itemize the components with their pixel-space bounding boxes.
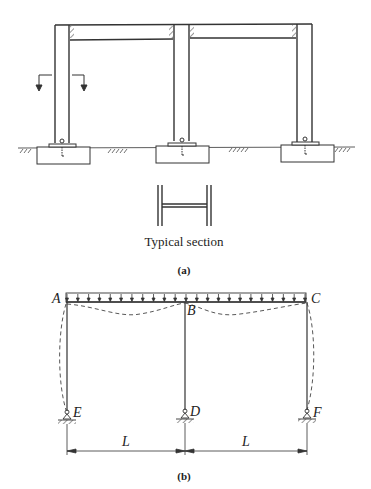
i-section-icon [158,185,211,226]
joint-label-C: C [311,291,321,306]
joint-label-F: F [312,405,322,420]
load-arrowhead-icon [228,298,231,302]
footing-middle [156,138,209,163]
load-arrowhead-icon [293,298,296,302]
load-arrowhead-icon [195,298,198,302]
portal-frame-elevation: Typical section (a) [18,24,355,277]
load-arrowhead-icon [98,298,101,302]
load-arrowhead-icon [271,298,274,302]
column-left [55,25,69,143]
load-arrowhead-icon [109,298,112,302]
load-arrowhead-icon [249,298,252,302]
joint-label-A: A [51,291,61,306]
load-arrowhead-icon [76,298,79,302]
column-middle [174,25,189,141]
beam-left [55,24,312,40]
dimension-lines [67,423,307,455]
load-arrows [66,294,307,302]
caption-b: (b) [177,470,191,483]
load-arrowhead-icon [163,298,166,302]
structural-diagram: Typical section (a) [0,0,371,489]
load-arrowhead-icon [260,298,263,302]
load-arrowhead-icon [141,298,144,302]
caption-a: (a) [178,264,191,277]
load-arrowhead-icon [239,298,242,302]
load-arrowhead-icon [217,298,220,302]
load-arrowhead-icon [185,298,188,302]
load-arrowhead-icon [87,298,90,302]
section-cut-arrows [36,75,87,91]
connection-hatches [70,25,296,38]
column-right [297,24,312,142]
load-arrowhead-icon [120,298,123,302]
load-arrowhead-icon [174,298,177,302]
footing-right [281,137,334,162]
load-arrowhead-icon [152,298,155,302]
joint-label-D: D [189,404,200,419]
load-arrowhead-icon [130,298,133,302]
joint-label-B: B [187,303,196,318]
frame-model: A B C D E F L L (b) [51,291,322,483]
span-label-left: L [121,434,130,449]
load-arrowhead-icon [206,298,209,302]
joint-label-E: E [72,405,82,420]
load-arrowhead-icon [282,298,285,302]
deflected-shape [60,303,314,410]
footing-left [37,139,90,164]
span-label-right: L [241,434,250,449]
section-label: Typical section [145,234,224,249]
